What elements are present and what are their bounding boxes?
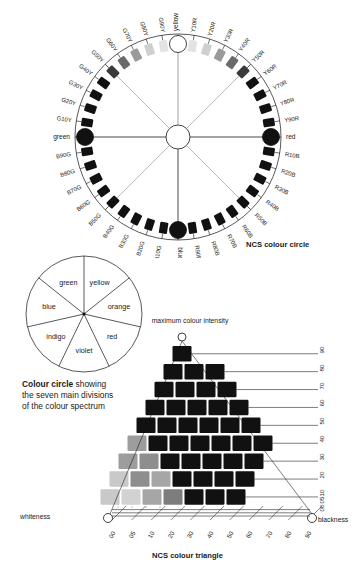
triangle-swatch [209, 400, 228, 416]
triangle-swatch [140, 453, 159, 469]
notation-label-Y10R: Y10R [190, 17, 198, 33]
chromaticness-tick-70: 70 [318, 382, 325, 389]
triangle-swatch [164, 364, 183, 380]
notation-label-G20Y: G20Y [61, 96, 77, 106]
triangle-swatch [191, 436, 210, 452]
triangle-swatch [230, 400, 249, 416]
notation-label-G50Y: G50Y [90, 49, 105, 64]
triangle-swatch [245, 453, 264, 469]
triangle-swatch [167, 400, 186, 416]
notation-label-Y50R: Y50R [251, 49, 266, 64]
triangle-swatch [179, 418, 198, 434]
notation-label-B40G: B40G [102, 223, 116, 239]
segment-label-green: green [46, 278, 90, 287]
triangle-swatch [137, 418, 156, 434]
chromaticness-tick-30: 30 [318, 454, 325, 461]
triangle-swatch [176, 382, 195, 398]
notation-label-R20B: R20B [280, 168, 296, 178]
notation-label-R70B: R70B [226, 233, 238, 249]
chromaticness-tick-00: 00 [318, 505, 325, 512]
segment-label-blue: blue [27, 302, 71, 311]
primary-label-yellow: yellow [172, 13, 180, 32]
triangle-swatch [206, 489, 225, 505]
triangle-swatch [119, 453, 138, 469]
triangle-swatch [158, 418, 177, 434]
notation-label-R60B: R60B [241, 224, 255, 240]
notation-label-B30G: B30G [118, 233, 130, 250]
triangle-swatch [188, 400, 207, 416]
triangle-swatch [131, 471, 150, 487]
notation-label-R40B: R40B [265, 199, 281, 213]
ncs-colour-triangle-figure: 9080706050403020100500000510203040506070… [100, 318, 357, 575]
notation-label-R50B: R50B [254, 212, 269, 227]
triangle-swatch [164, 489, 183, 505]
triangle-swatch [146, 400, 165, 416]
triangle-swatch [170, 436, 189, 452]
ncs-colour-circle-figure: yellowY10RY20RY30RY40RY50RY60RY70RY80RY9… [0, 0, 357, 258]
triangle-swatch [101, 489, 120, 505]
ncs-colour-triangle-title: NCS colour triangle [152, 551, 223, 560]
primary-label-red: red [286, 133, 296, 140]
notation-label-Y90R: Y90R [284, 115, 300, 123]
chromaticness-tick-60: 60 [318, 400, 325, 407]
triangle-swatch [143, 489, 162, 505]
caption-title: Colour circle [22, 379, 73, 389]
triangle-swatch [215, 471, 234, 487]
notation-label-G30Y: G30Y [68, 79, 84, 91]
triangle-swatch [194, 471, 213, 487]
triangle-swatch [233, 436, 252, 452]
notation-label-B80G: B80G [59, 168, 76, 178]
triangle-swatch [149, 436, 168, 452]
triangle-swatch-group [101, 346, 273, 505]
notation-label-Y70R: Y70R [272, 79, 288, 91]
triangle-swatch [173, 471, 192, 487]
notation-label-R30B: R30B [274, 184, 290, 196]
notation-label-G70Y: G70Y [121, 27, 133, 43]
chromaticness-tick-05: 05 [318, 497, 325, 504]
notation-label-B70G: B70G [66, 184, 83, 196]
triangle-swatch [218, 382, 237, 398]
triangle-swatch [212, 436, 231, 452]
triangle-swatch [221, 418, 240, 434]
triangle-swatch [224, 453, 243, 469]
segment-label-indigo: indigo [34, 332, 78, 341]
notation-label-G60Y: G60Y [105, 37, 119, 53]
notation-label-R10B: R10B [285, 151, 301, 159]
ncs-colour-circle-svg: yellowY10RY20RY30RY40RY50RY60RY70RY80RY9… [0, 0, 357, 258]
ncs-colour-circle-title: NCS colour circle [246, 240, 309, 249]
notation-label-R90B: R90B [194, 245, 202, 258]
triangle-swatch [203, 453, 222, 469]
chromaticness-tick-50: 50 [318, 418, 325, 425]
notation-label-G80Y: G80Y [139, 21, 149, 37]
primary-label-green: green [53, 133, 70, 141]
triangle-swatch [206, 364, 225, 380]
maximum-colour-intensity-label: maximum colour intensity [150, 317, 230, 326]
notation-label-Y60R: Y60R [262, 63, 277, 77]
triangle-swatch [227, 489, 246, 505]
notation-label-Y40R: Y40R [237, 37, 251, 52]
notation-label-Y80R: Y80R [279, 97, 295, 107]
notation-label-Y30R: Y30R [223, 28, 235, 44]
chromaticness-tick-40: 40 [318, 436, 325, 443]
notation-label-G40Y: G40Y [78, 63, 94, 77]
notation-label-R80B: R80B [210, 240, 220, 256]
triangle-swatch [236, 471, 255, 487]
triangle-swatch [161, 453, 180, 469]
chromaticness-tick-80: 80 [318, 364, 325, 371]
triangle-swatch [242, 418, 261, 434]
triangle-swatch [122, 489, 141, 505]
triangle-swatch [185, 489, 204, 505]
triangle-swatch [173, 346, 192, 362]
whiteness-label: whiteness [20, 513, 50, 520]
notation-label-B50G: B50G [87, 212, 102, 227]
notation-label-G90Y: G90Y [158, 17, 166, 33]
segment-label-orange: orange [97, 302, 141, 311]
triangle-swatch [182, 453, 201, 469]
notation-label-G10Y: G10Y [56, 115, 72, 123]
chromaticness-tick-90: 90 [318, 346, 325, 353]
notation-label-B90G: B90G [56, 151, 72, 159]
triangle-swatch [197, 382, 216, 398]
chromaticness-tick-10: 10 [318, 490, 325, 497]
triangle-swatch [110, 471, 129, 487]
notation-label-B60G: B60G [75, 198, 91, 212]
